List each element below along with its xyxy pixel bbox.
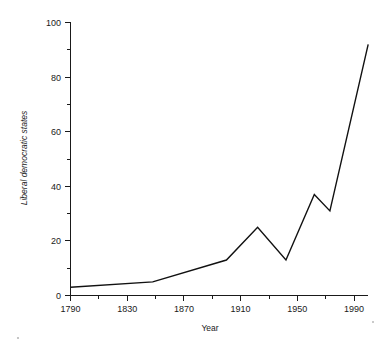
y-tick-label: 80 bbox=[51, 73, 61, 83]
x-tick-label: 1830 bbox=[117, 304, 137, 314]
y-axis-title: Liberal democratic states bbox=[19, 110, 29, 205]
x-tick-label: 1790 bbox=[60, 304, 80, 314]
y-tick-label: 40 bbox=[51, 182, 61, 192]
y-tick-label: 0 bbox=[56, 291, 61, 301]
x-axis-title: Year bbox=[201, 323, 218, 333]
scan-speck bbox=[17, 337, 19, 339]
x-tick-label: 1910 bbox=[231, 304, 251, 314]
line-chart-svg: 100 80 60 40 20 0 1790 1830 bbox=[0, 0, 392, 347]
x-tick-label: 1870 bbox=[174, 304, 194, 314]
y-tick-label: 60 bbox=[51, 127, 61, 137]
y-tick-label: 100 bbox=[46, 18, 61, 28]
y-tick-label: 20 bbox=[51, 236, 61, 246]
chart-figure: 100 80 60 40 20 0 1790 1830 bbox=[0, 0, 392, 347]
x-tick-label: 1990 bbox=[344, 304, 364, 314]
x-tick-label: 1950 bbox=[287, 304, 307, 314]
scan-speck bbox=[372, 321, 374, 323]
